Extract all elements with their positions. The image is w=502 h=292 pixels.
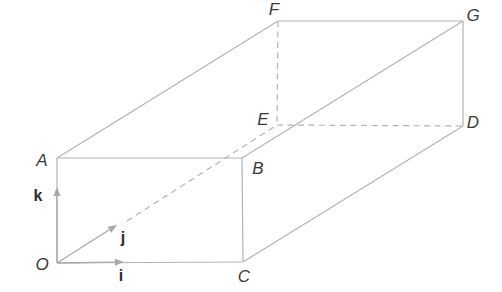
vector-arrowhead-i [115, 259, 124, 266]
hidden-edge-E-D [277, 125, 463, 126]
vector-shaft-j [57, 230, 109, 263]
vertex-label-A: A [36, 152, 47, 169]
edge-B-G [242, 21, 463, 158]
edge-B-C [242, 158, 243, 262]
vertex-label-D: D [467, 114, 479, 131]
vertex-label-O: O [35, 256, 48, 273]
vector-arrowhead-k [54, 187, 61, 196]
box-diagram-svg [0, 0, 502, 292]
box-diagram: O A B C D E F G k j i [0, 0, 502, 292]
vertex-label-C: C [238, 268, 250, 285]
vector-arrowhead-j [108, 225, 117, 233]
hidden-edge-F-E [277, 21, 278, 125]
vertex-label-F: F [269, 1, 279, 18]
vertex-label-G: G [466, 7, 479, 24]
edge-C-D [243, 126, 463, 262]
vertex-label-E: E [257, 111, 268, 128]
vertex-label-B: B [252, 160, 263, 177]
basis-vector-label-k: k [34, 188, 43, 204]
vector-shaft-i [57, 262, 115, 263]
basis-vector-label-i: i [119, 268, 123, 284]
edge-A-F [57, 21, 278, 158]
basis-vector-label-j: j [121, 230, 125, 246]
